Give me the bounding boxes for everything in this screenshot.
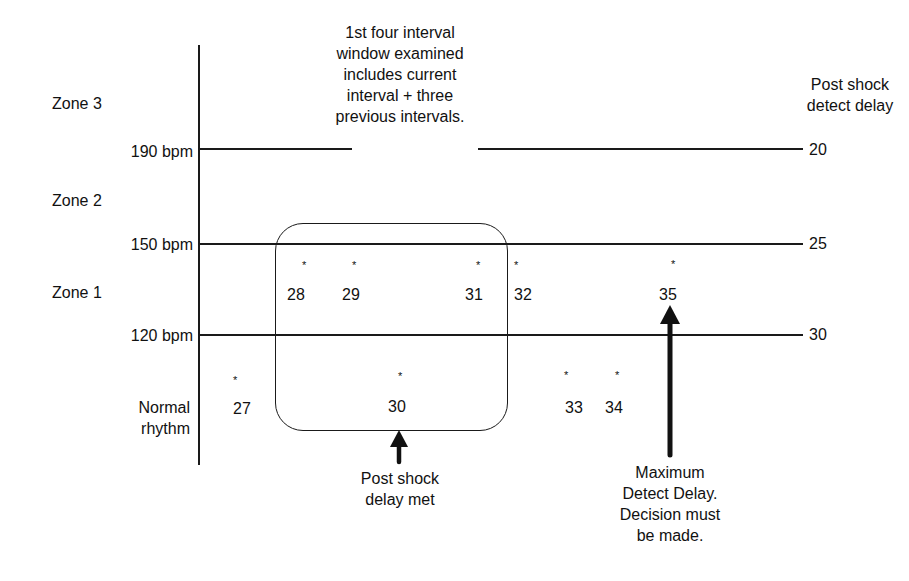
post-shock-callout-line: Post shock (340, 468, 460, 489)
max-delay-arrow-icon (660, 305, 680, 455)
max-delay-callout-line: Detect Delay. (605, 483, 735, 504)
post-shock-callout-line: delay met (340, 489, 460, 510)
post-shock-callout: Post shock delay met (340, 468, 460, 510)
max-delay-callout-line: be made. (605, 525, 735, 546)
post-shock-arrow-icon (390, 430, 408, 462)
max-delay-callout: Maximum Detect Delay. Decision must be m… (605, 462, 735, 546)
max-delay-callout-line: Decision must (605, 504, 735, 525)
max-delay-callout-line: Maximum (605, 462, 735, 483)
